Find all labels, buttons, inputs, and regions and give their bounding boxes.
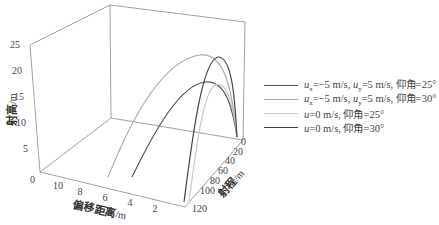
x-axis-label: 偏移距离/m: [71, 197, 127, 222]
legend: ux=−5 m/s, uy=5 m/s, 仰角=25° ux=−5 m/s, u…: [264, 78, 436, 134]
svg-text:2: 2: [153, 203, 158, 214]
svg-text:10: 10: [53, 180, 63, 191]
legend-item: u=0 m/s, 仰角=30°: [264, 120, 436, 134]
svg-text:25: 25: [10, 39, 20, 50]
svg-text:120: 120: [192, 203, 207, 214]
svg-text:100: 100: [200, 185, 215, 196]
legend-swatch: [264, 85, 298, 86]
svg-text:6: 6: [103, 192, 108, 203]
legend-swatch: [264, 127, 298, 128]
svg-text:4: 4: [128, 197, 133, 208]
trajectory-ux-uy-30deg: [108, 55, 237, 177]
svg-text:5: 5: [23, 143, 28, 154]
svg-text:20: 20: [12, 65, 22, 76]
z-axis-label: 射高/m: [5, 93, 19, 127]
legend-item: ux=−5 m/s, uy=5 m/s, 仰角=30°: [264, 92, 436, 106]
trajectory-ux-uy-25deg: [132, 82, 237, 177]
legend-item: u=0 m/s, 仰角=25°: [264, 106, 436, 120]
svg-text:8: 8: [78, 186, 83, 197]
svg-text:0: 0: [30, 174, 35, 185]
legend-swatch: [264, 113, 298, 114]
legend-swatch: [264, 99, 298, 100]
